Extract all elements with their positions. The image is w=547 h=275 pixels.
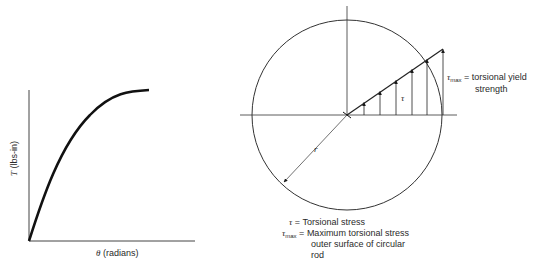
tau-label: τ: [401, 93, 404, 103]
legend-row-tau: τ = Torsional stress: [289, 217, 365, 227]
y-axis-label: T (lbs-in): [9, 141, 19, 176]
legend-row-cont1: outer surface of circular: [311, 239, 405, 249]
radius-label: r: [314, 144, 318, 154]
diagram-canvas: [0, 0, 547, 275]
torque-curve: [29, 90, 149, 241]
stress-envelope-line: [347, 49, 443, 115]
x-axis-label: θ (radians): [96, 248, 138, 258]
legend-row-cont2: rod: [311, 250, 324, 260]
stress-distribution-diagram: [240, 6, 457, 210]
stress-arrows: [364, 51, 443, 115]
torque-angle-plot: [29, 90, 195, 241]
tau-max-annotation-line2: strength: [475, 84, 508, 94]
